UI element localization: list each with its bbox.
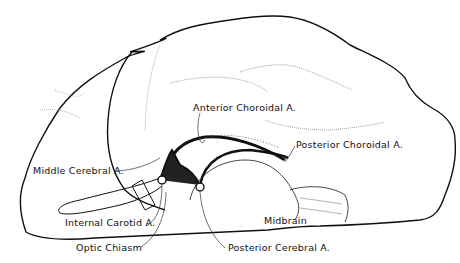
label-posterior-cerebral-artery: Posterior Cerebral A. <box>228 242 330 253</box>
temporal-outline <box>108 52 165 210</box>
middle-cerebral-artery <box>59 178 162 214</box>
label-anterior-choroidal-artery: Anterior Choroidal A. <box>193 102 296 113</box>
anterior-choroidal-artery <box>170 137 285 160</box>
brain-diagram: Anterior Choroidal A. Posterior Choroida… <box>0 0 460 263</box>
label-midbrain: Midbrain <box>264 215 307 226</box>
label-internal-carotid-artery: Internal Carotid A. <box>65 217 155 228</box>
label-posterior-choroidal-artery: Posterior Choroidal A. <box>296 139 403 150</box>
label-optic-chiasm: Optic Chiasm <box>76 242 142 253</box>
cortex-outline <box>21 16 456 239</box>
label-middle-cerebral-artery: Middle Cerebral A. <box>33 165 124 176</box>
